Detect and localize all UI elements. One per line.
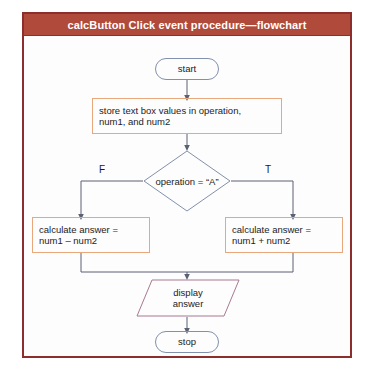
node-stop-label: stop: [178, 336, 196, 348]
node-calculate-subtract: calculate answer = num1 – num2: [32, 217, 150, 253]
node-start-label: start: [178, 63, 196, 75]
flowchart-figure: calcButton Click event procedure—flowcha…: [22, 12, 352, 358]
flowchart-canvas: start store text box values in operation…: [24, 36, 350, 356]
figure-title: calcButton Click event procedure—flowcha…: [68, 19, 307, 31]
node-display-answer: display answer: [136, 279, 240, 317]
connector-false-branch: [81, 181, 143, 217]
node-display-line1: display: [173, 287, 203, 299]
node-calc-false-line1: calculate answer =: [39, 224, 118, 236]
node-calc-false-line2: num1 – num2: [39, 235, 118, 247]
node-decision: operation = “A”: [143, 150, 231, 212]
branch-label-false: F: [99, 164, 105, 175]
node-display-line2: answer: [173, 298, 204, 310]
node-decision-label: operation = “A”: [155, 176, 218, 187]
connector-true-branch: [231, 181, 293, 217]
node-store-values: store text box values in operation, num1…: [92, 98, 282, 134]
node-calculate-add: calculate answer = num1 + num2: [225, 217, 343, 253]
node-stop: stop: [155, 331, 219, 353]
node-start: start: [155, 58, 219, 80]
connector-false-merge: [81, 253, 187, 272]
node-calc-true-line1: calculate answer =: [232, 224, 311, 236]
branch-label-true: T: [265, 164, 271, 175]
figure-title-bar: calcButton Click event procedure—flowcha…: [24, 14, 350, 36]
node-store-line2: num1, and num2: [99, 116, 241, 128]
node-calc-true-line2: num1 + num2: [232, 235, 311, 247]
connector-true-merge: [187, 253, 293, 272]
node-store-line1: store text box values in operation,: [99, 105, 241, 117]
